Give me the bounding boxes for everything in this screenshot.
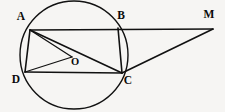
vertex-label-a: A <box>17 10 26 22</box>
segment-d-c <box>25 72 122 73</box>
segment-a-m <box>30 29 213 30</box>
vertex-label-m: M <box>204 8 215 20</box>
vertex-label-b: B <box>117 9 125 21</box>
figure-canvas: A B C D O M <box>0 0 225 112</box>
vertex-label-c: C <box>124 74 132 86</box>
vertex-label-d: D <box>12 73 20 85</box>
vertex-label-o: O <box>71 56 79 67</box>
geometry-figure: A B C D O M <box>0 0 225 112</box>
